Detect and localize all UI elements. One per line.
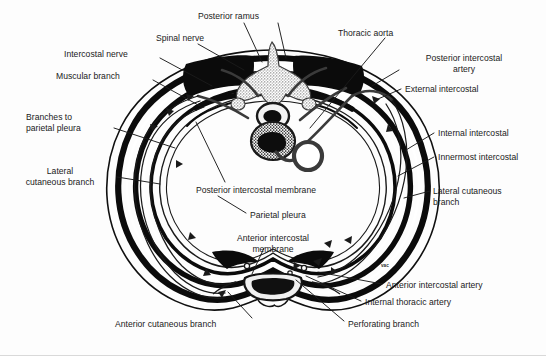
label-internal-thoracic-artery: Internal thoracic artery	[365, 297, 451, 308]
label-internal-intercostal: Internal intercostal	[438, 128, 509, 139]
label-posterior-intercostal-artery: Posterior intercostal artery	[399, 53, 529, 74]
leader-posterior-intercostal-artery	[372, 70, 399, 86]
label-intercostal-nerve: Intercostal nerve	[64, 49, 128, 60]
label-spinal-nerve: Spinal nerve	[156, 33, 204, 44]
label-lateral-cutaneous-branch-right: Lateral cutaneous branch	[433, 186, 502, 207]
label-branches-to-parietal-pleura: Branches to parietal pleura	[26, 112, 81, 133]
label-external-intercostal: External intercostal	[405, 84, 478, 95]
label-innermost-intercostal: Innermost intercostal	[438, 152, 518, 163]
leader-posterior-intercostal-membrane	[196, 122, 225, 182]
leader-posterior-ramus-2	[278, 23, 286, 58]
label-posterior-intercostal-membrane: Posterior intercostal membrane	[196, 185, 316, 196]
label-perforating-branch: Perforating branch	[348, 319, 419, 330]
leader-parietal-pleura	[218, 196, 246, 213]
label-parietal-pleura: Parietal pleura	[250, 210, 306, 221]
internal-thoracic-vessel-left	[244, 263, 249, 268]
label-lateral-cutaneous-branch-left: Lateral cutaneous branch	[4, 166, 116, 187]
label-anterior-cutaneous-branch: Anterior cutaneous branch	[115, 319, 216, 330]
figure-panel: Posterior ramus Spinal nerve Thoracic ao…	[0, 0, 546, 356]
label-posterior-ramus: Posterior ramus	[198, 11, 259, 22]
label-anterior-intercostal-artery: Anterior intercostal artery	[386, 280, 483, 291]
internal-thoracic-vessel-right	[301, 265, 306, 270]
label-anterior-intercostal-membrane: Anterior intercostal membrane	[218, 233, 328, 254]
vertebral-body-marrow	[258, 132, 286, 153]
label-muscular-branch: Muscular branch	[56, 71, 120, 82]
aorta-ring	[294, 142, 322, 170]
label-thoracic-aorta: Thoracic aorta	[338, 28, 393, 39]
label-vac-marker: vac	[381, 261, 389, 272]
